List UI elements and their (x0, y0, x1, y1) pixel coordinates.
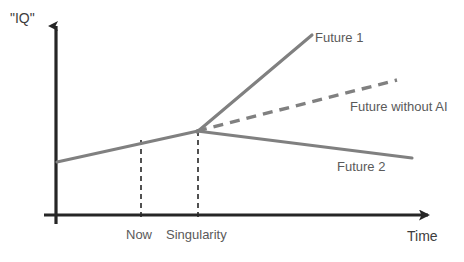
series-label-future-without-ai: Future without AI (350, 100, 448, 113)
tick-label-singularity: Singularity (166, 228, 227, 241)
x-axis-label: Time (407, 229, 438, 243)
future-2-line (197, 131, 412, 158)
diagram-canvas (0, 0, 464, 262)
singularity-diagram: "IQ" Time Now Singularity Future 1 Futur… (0, 0, 464, 262)
y-axis-label: "IQ" (10, 11, 35, 25)
tick-label-now: Now (126, 228, 152, 241)
series-label-future-2: Future 2 (337, 160, 385, 173)
history-line (57, 131, 198, 162)
series-label-future-1: Future 1 (315, 31, 363, 44)
